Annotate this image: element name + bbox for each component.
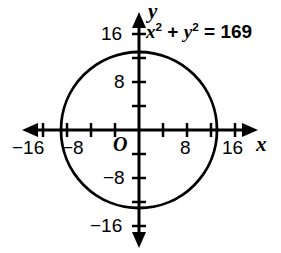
y-axis-top-arrowhead [132, 12, 146, 28]
y-axis-bottom-arrowhead [132, 232, 146, 248]
x-axis-label: x [256, 134, 267, 155]
x-tick-label-8: 8 [180, 138, 191, 157]
equation-var-x: x [146, 21, 156, 42]
y-tick-label-negative-16: −16 [90, 216, 122, 235]
x-axis-left-arrowhead [22, 123, 38, 137]
equation-annotation: x2 + y2 = 169 [146, 22, 252, 41]
x-tick-label-negative-16: −16 [12, 138, 44, 157]
y-tick-label-negative-8: −8 [103, 168, 125, 187]
equation-rhs: 169 [220, 21, 252, 42]
circle-graph-figure: 16 8 −8 −16 −16 −8 8 16 O y x x2 + y2 = … [0, 0, 281, 253]
x-tick-label-16: 16 [222, 138, 243, 157]
equation-exponent-y: 2 [192, 20, 199, 33]
origin-label: O [113, 134, 127, 154]
y-tick-label-8: 8 [114, 72, 125, 91]
equation-operator: + [167, 21, 178, 42]
y-tick-label-16: 16 [101, 24, 122, 43]
x-tick-label-negative-8: −8 [62, 138, 84, 157]
equation-exponent-x: 2 [156, 20, 163, 33]
equation-equals: = [204, 21, 215, 42]
equation-var-y: y [184, 21, 192, 42]
